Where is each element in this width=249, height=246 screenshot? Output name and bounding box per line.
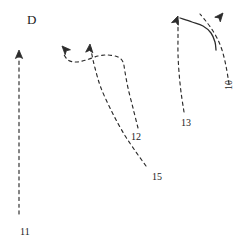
tracks-canvas bbox=[0, 0, 249, 246]
track-label-12: 12 bbox=[131, 131, 141, 142]
solid-curve-group bbox=[180, 18, 216, 50]
track-path-15 bbox=[91, 48, 146, 166]
arrowhead-12 bbox=[59, 44, 70, 55]
solid-hook-curve bbox=[180, 18, 216, 50]
arrowhead-10 bbox=[215, 11, 226, 22]
arrowhead-group bbox=[15, 11, 225, 59]
track-path-12 bbox=[63, 53, 138, 128]
trajectory-figure: D 1115121310 bbox=[0, 0, 249, 246]
track-label-10: 10 bbox=[223, 80, 234, 90]
track-path-10 bbox=[200, 14, 229, 84]
track-label-11: 11 bbox=[20, 226, 30, 237]
dashed-track-group bbox=[19, 14, 229, 214]
track-label-15: 15 bbox=[152, 171, 162, 182]
arrowhead-15 bbox=[86, 44, 94, 53]
track-label-13: 13 bbox=[181, 117, 191, 128]
arrowhead-13 bbox=[172, 15, 182, 26]
track-path-13 bbox=[178, 20, 184, 112]
